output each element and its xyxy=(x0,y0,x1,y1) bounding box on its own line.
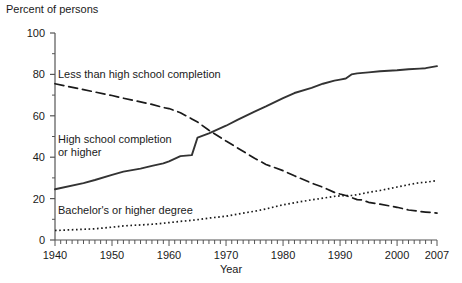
x-tick-label: 1940 xyxy=(35,249,75,261)
series-label-hs-line2: or higher xyxy=(58,146,101,158)
x-tick-label: 1990 xyxy=(320,249,360,261)
x-tick-label: 1980 xyxy=(263,249,303,261)
series-label-bachelors-or-higher: Bachelor's or higher degree xyxy=(58,204,193,217)
x-tick-label: 1950 xyxy=(92,249,132,261)
y-tick-label: 0 xyxy=(19,234,45,246)
x-tick-label: 1970 xyxy=(206,249,246,261)
y-tick-label: 80 xyxy=(19,68,45,80)
series-label-hs-line1: High school completion xyxy=(58,133,172,145)
series-label-less-than-high-school: Less than high school completion xyxy=(58,68,221,81)
chart-container: Percent of persons 020406080100 19401950… xyxy=(0,0,462,283)
y-tick-label: 100 xyxy=(19,27,45,39)
y-tick-label: 60 xyxy=(19,110,45,122)
y-tick-label: 20 xyxy=(19,193,45,205)
series-line-1 xyxy=(55,66,437,189)
x-axis-title: Year xyxy=(0,263,462,276)
series-label-high-school-completion: High school completionor higher xyxy=(58,133,172,159)
x-tick-label: 1960 xyxy=(149,249,189,261)
x-tick-label: 2000 xyxy=(377,249,417,261)
x-tick-label: 2007 xyxy=(417,249,457,261)
y-tick-label: 40 xyxy=(19,151,45,163)
